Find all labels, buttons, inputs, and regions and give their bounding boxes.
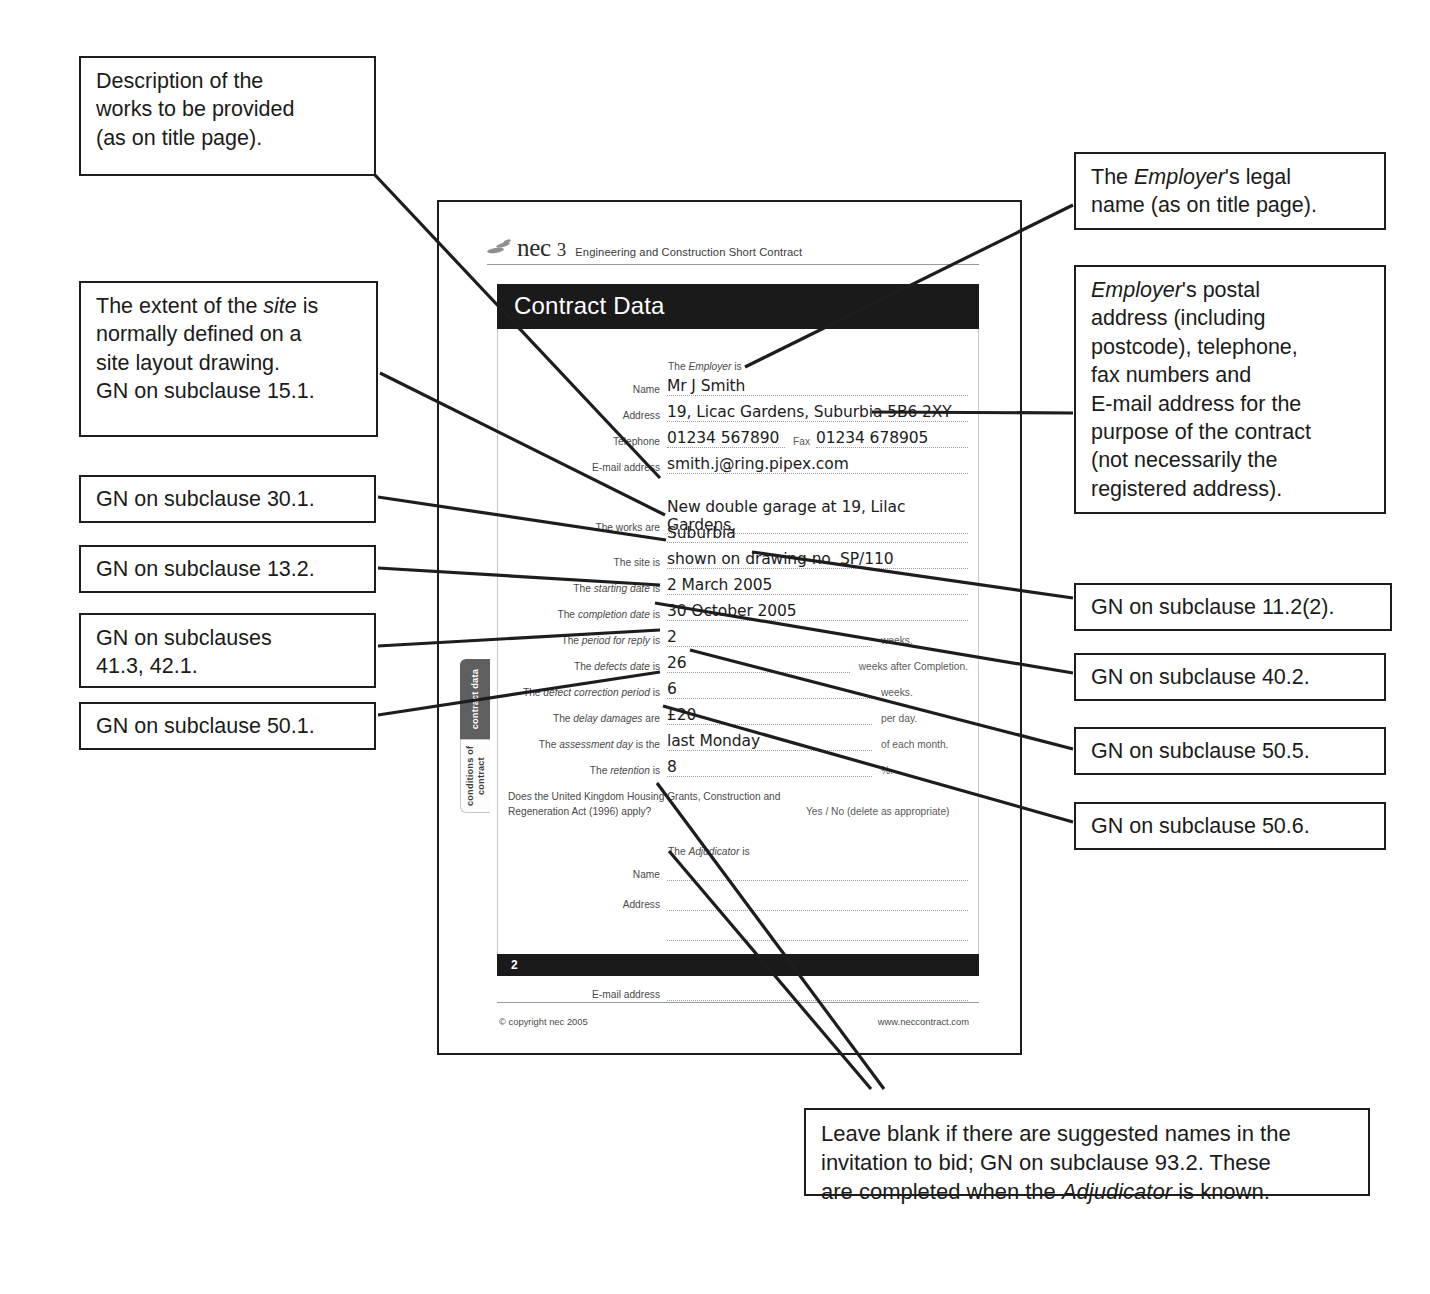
form-row-retention: The retention is 8 %.: [508, 757, 968, 777]
field-employer-address[interactable]: 19, Licac Gardens, Suburbia 5B6 2XY: [667, 402, 968, 422]
callout-gn-11-2-2: GN on subclause 11.2(2).: [1074, 583, 1392, 631]
field-employer-telephone[interactable]: 01234 567890: [667, 428, 785, 448]
form-row-delay-damages: The delay damages are £20 per day.: [508, 705, 968, 725]
page-number: 2: [511, 958, 518, 972]
callout-gn-30-1: GN on subclause 30.1.: [79, 475, 376, 523]
callout-employer-postal-address: Employer's postal address (including pos…: [1074, 265, 1386, 514]
field-retention[interactable]: 8: [667, 757, 872, 777]
nec-swoosh-icon: [487, 240, 513, 256]
field-defect-correction-period[interactable]: 6: [667, 679, 872, 699]
page-title: Contract Data: [514, 292, 665, 320]
value-delay-damages: £20: [667, 706, 696, 724]
form-row-site: The site is shown on drawing no. SP/110: [508, 549, 968, 569]
callout-gn-50-1: GN on subclause 50.1.: [79, 702, 376, 750]
nec-brand: nec: [517, 234, 551, 262]
field-adjudicator-address-2[interactable]: [667, 921, 968, 941]
field-delay-damages[interactable]: £20: [667, 705, 872, 725]
callout-site-extent-text: The extent of the site is normally defin…: [96, 294, 318, 403]
unit-defects-date: weeks after Completion.: [850, 661, 968, 673]
field-starting-date[interactable]: 2 March 2005: [667, 575, 968, 595]
label-assessment-day: The assessment day is the: [508, 739, 667, 751]
field-defects-date[interactable]: 26: [667, 653, 850, 673]
label-works-line2: [508, 542, 667, 543]
unit-defect-correction-period: weeks.: [872, 687, 913, 699]
side-tab-conditions-of-contract[interactable]: conditions of contract: [460, 739, 490, 813]
nec3-masthead: nec 3 Engineering and Construction Short…: [487, 234, 979, 262]
value-employer-telephone: 01234 567890: [667, 429, 779, 447]
label-adjudicator-address: Address: [508, 899, 667, 911]
form-row-starting-date: The starting date is 2 March 2005: [508, 575, 968, 595]
side-tab-contract-data-label: contract data: [470, 669, 481, 729]
label-employer-email: E-mail address: [508, 462, 667, 474]
label-employer-telephone: Telephone: [508, 436, 667, 448]
field-site[interactable]: shown on drawing no. SP/110: [667, 549, 968, 569]
callout-gn-50-6: GN on subclause 50.6.: [1074, 802, 1386, 850]
field-adjudicator-email[interactable]: [667, 981, 968, 1001]
form-row-employer-name: Name Mr J Smith: [508, 376, 968, 396]
callout-site-extent: The extent of the site is normally defin…: [79, 281, 378, 437]
value-retention: 8: [667, 758, 677, 776]
field-works-line2[interactable]: Suburbia: [667, 523, 968, 543]
nec-version: 3: [557, 239, 567, 261]
field-employer-fax[interactable]: 01234 678905: [816, 428, 968, 448]
label-defect-correction-period: The defect correction period is: [508, 687, 667, 699]
field-employer-email[interactable]: smith.j@ring.pipex.com: [667, 454, 968, 474]
nec-subtitle: Engineering and Construction Short Contr…: [575, 246, 802, 258]
form-row-adjudicator-address: Address: [508, 891, 968, 911]
document-page-content: nec 3 Engineering and Construction Short…: [487, 220, 979, 1020]
value-defect-correction-period: 6: [667, 680, 677, 698]
label-adjudicator-address-2: [508, 940, 667, 941]
label-completion-date: The completion date is: [508, 609, 667, 621]
adjudicator-lead-in: The Adjudicator is: [668, 846, 750, 857]
value-period-for-reply: 2: [667, 628, 677, 646]
field-employer-name[interactable]: Mr J Smith: [667, 376, 968, 396]
callout-adjudicator-note-text: Leave blank if there are suggested names…: [821, 1121, 1291, 1204]
label-period-for-reply: The period for reply is: [508, 635, 667, 647]
page-number-band: 2: [497, 954, 979, 976]
unit-assessment-day: of each month.: [872, 739, 948, 751]
value-employer-fax: 01234 678905: [816, 429, 928, 447]
field-completion-date[interactable]: 30 October 2005: [667, 601, 968, 621]
footer-website[interactable]: www.neccontract.com: [878, 1016, 969, 1027]
label-starting-date: The starting date is: [508, 583, 667, 595]
form-row-works-line2: Suburbia: [508, 523, 968, 543]
form-row-period-for-reply: The period for reply is 2 weeks.: [508, 627, 968, 647]
label-retention: The retention is: [508, 765, 667, 777]
form-row-employer-email: E-mail address smith.j@ring.pipex.com: [508, 454, 968, 474]
value-employer-name: Mr J Smith: [667, 377, 745, 395]
form-row-adjudicator-email: E-mail address: [508, 981, 968, 1001]
label-employer-fax: Fax: [785, 436, 816, 448]
form-row-employer-address: Address 19, Licac Gardens, Suburbia 5B6 …: [508, 402, 968, 422]
value-starting-date: 2 March 2005: [667, 576, 772, 594]
label-defects-date: The defects date is: [508, 661, 667, 673]
value-works-line2: Suburbia: [667, 524, 736, 542]
unit-period-for-reply: weeks.: [872, 635, 913, 647]
side-tab-group: contract data conditions of contract: [460, 659, 490, 813]
form-row-defects-date: The defects date is 26 weeks after Compl…: [508, 653, 968, 673]
callout-gn-40-2: GN on subclause 40.2.: [1074, 653, 1386, 701]
form-row-defect-correction-period: The defect correction period is 6 weeks.: [508, 679, 968, 699]
callout-gn-50-5: GN on subclause 50.5.: [1074, 727, 1386, 775]
label-employer-name: Name: [508, 384, 667, 396]
value-defects-date: 26: [667, 654, 687, 672]
field-adjudicator-name[interactable]: [667, 861, 968, 881]
callout-gn-41-3-42-1: GN on subclauses 41.3, 42.1.: [79, 613, 376, 688]
field-assessment-day[interactable]: last Monday: [667, 731, 872, 751]
unit-retention: %.: [872, 765, 893, 777]
side-tab-conditions-label: conditions of contract: [465, 740, 487, 812]
field-period-for-reply[interactable]: 2: [667, 627, 872, 647]
field-adjudicator-address[interactable]: [667, 891, 968, 911]
form-row-completion-date: The completion date is 30 October 2005: [508, 601, 968, 621]
label-adjudicator-email: E-mail address: [508, 989, 667, 1001]
callout-employer-postal-address-text: Employer's postal address (including pos…: [1091, 278, 1311, 501]
label-delay-damages: The delay damages are: [508, 713, 667, 725]
contract-data-title-bar: Contract Data: [497, 284, 979, 329]
callout-adjudicator-note: Leave blank if there are suggested names…: [804, 1108, 1370, 1196]
callout-works-description: Description of the works to be provided …: [79, 56, 376, 176]
value-completion-date: 30 October 2005: [667, 602, 797, 620]
side-tab-contract-data[interactable]: contract data: [460, 659, 490, 739]
label-adjudicator-name: Name: [508, 869, 667, 881]
form-row-adjudicator-address-2: [508, 921, 968, 941]
housing-grants-answer[interactable]: Yes / No (delete as appropriate): [806, 806, 949, 817]
value-site: shown on drawing no. SP/110: [667, 550, 894, 568]
